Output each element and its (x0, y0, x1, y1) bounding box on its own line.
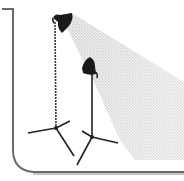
tall-light-stand (28, 22, 74, 156)
studio-lights-illustration (0, 0, 184, 181)
light-beam (62, 12, 184, 160)
